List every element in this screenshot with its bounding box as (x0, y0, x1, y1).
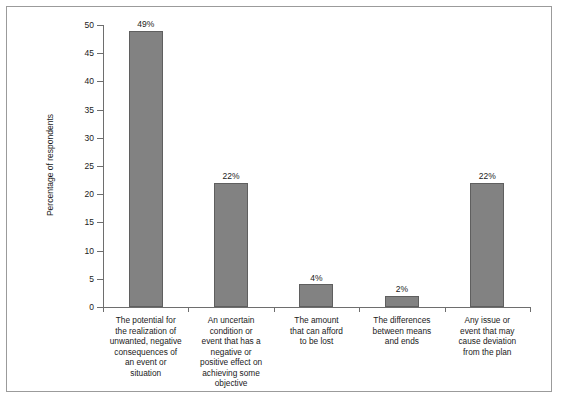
bar-value-label: 22% (479, 172, 496, 181)
category-label-line: Any issue or (445, 315, 530, 326)
category-label-line: event that has a (188, 336, 273, 347)
y-tick-label: 25 (85, 162, 94, 171)
y-tick-label: 40 (85, 77, 94, 86)
y-tick-label: 20 (85, 190, 94, 199)
bar-value-label: 22% (223, 172, 240, 181)
category-label-line: unwanted, negative (103, 336, 188, 347)
x-axis-category-label: The amountthat can affordto be lost (274, 315, 359, 347)
x-axis-separator-tick (103, 307, 104, 312)
bar[interactable]: 2% (385, 296, 419, 307)
category-label-line: cause deviation (445, 336, 530, 347)
y-tick-label: 10 (85, 246, 94, 255)
bar[interactable]: 4% (299, 284, 333, 307)
category-label-line: The potential for (103, 315, 188, 326)
y-tick-label: 15 (85, 218, 94, 227)
x-axis-category-label: An uncertaincondition orevent that has a… (188, 315, 273, 389)
x-axis-category-label: The differencesbetween meansand ends (359, 315, 444, 347)
category-label-line: The differences (359, 315, 444, 326)
category-label-line: condition or (188, 326, 273, 337)
bar-value-label: 49% (137, 20, 154, 29)
category-label-line: between means (359, 326, 444, 337)
category-label-line: event that may (445, 326, 530, 337)
chart-page: Percentage of respondents 05101520253035… (0, 0, 565, 402)
bar-slot: 4% (274, 25, 359, 307)
category-label-line: to be lost (274, 336, 359, 347)
category-label-line: situation (103, 368, 188, 379)
x-axis-line (103, 307, 530, 308)
bar-slot: 49% (103, 25, 188, 307)
x-axis-category-label: The potential forthe realization ofunwan… (103, 315, 188, 378)
category-label-line: An uncertain (188, 315, 273, 326)
y-tick-label: 5 (89, 275, 94, 284)
category-label-line: consequences of (103, 347, 188, 358)
y-tick-label: 50 (85, 21, 94, 30)
bar-slot: 22% (445, 25, 530, 307)
bar[interactable]: 22% (214, 183, 248, 307)
category-label-line: an event or (103, 357, 188, 368)
category-label-line: from the plan (445, 347, 530, 358)
x-axis-separator-tick (274, 307, 275, 312)
y-axis-title: Percentage of respondents (45, 75, 55, 255)
bar[interactable]: 49% (129, 31, 163, 307)
category-label-line: the realization of (103, 326, 188, 337)
x-axis-separator-tick (188, 307, 189, 312)
y-tick-label: 30 (85, 134, 94, 143)
x-axis-separator-tick (445, 307, 446, 312)
plot-area: 05101520253035404550 49%22%4%2%22% The p… (103, 25, 530, 307)
bar[interactable]: 22% (470, 183, 504, 307)
category-label-line: positive effect on (188, 357, 273, 368)
x-axis-separator-tick (530, 307, 531, 312)
y-tick-label: 0 (89, 303, 94, 312)
x-axis-category-label: Any issue orevent that maycause deviatio… (445, 315, 530, 357)
category-label-line: and ends (359, 336, 444, 347)
category-label-line: achieving some (188, 368, 273, 379)
category-label-line: objective (188, 378, 273, 389)
bar-slot: 2% (359, 25, 444, 307)
category-label-line: that can afford (274, 326, 359, 337)
y-tick-label: 35 (85, 105, 94, 114)
bar-slot: 22% (188, 25, 273, 307)
bar-value-label: 2% (396, 285, 408, 294)
y-tick-label: 45 (85, 49, 94, 58)
category-label-line: The amount (274, 315, 359, 326)
x-axis-separator-tick (359, 307, 360, 312)
bar-value-label: 4% (310, 274, 322, 283)
category-label-line: negative or (188, 347, 273, 358)
